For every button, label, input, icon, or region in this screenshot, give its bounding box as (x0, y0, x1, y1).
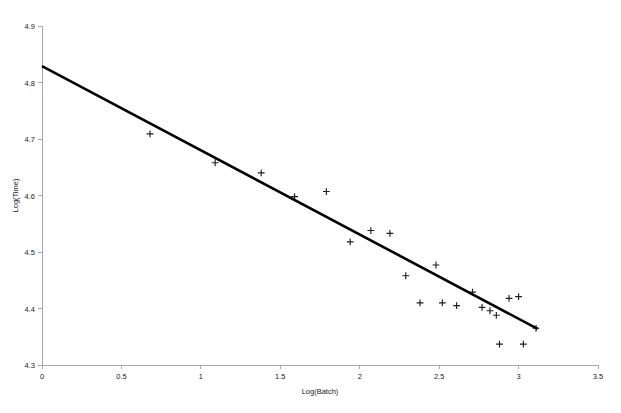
x-tick-label: 0 (40, 372, 44, 381)
y-tick-label: 4.5 (25, 248, 35, 257)
data-point-marker (520, 341, 527, 348)
x-tick-label: 3 (516, 372, 520, 381)
data-point-marker (506, 295, 513, 302)
x-tick-label: 1.5 (275, 372, 285, 381)
data-point-marker (417, 299, 424, 306)
x-tick-label: 0.5 (116, 372, 126, 381)
x-tick-label: 2 (358, 372, 362, 381)
data-point-marker (433, 262, 440, 269)
data-point-marker (402, 272, 409, 279)
y-tick-label: 4.3 (25, 361, 35, 370)
x-tick-label: 3.5 (593, 372, 603, 381)
x-tick-label: 1 (199, 372, 203, 381)
regression-line (42, 66, 538, 329)
data-point-marker (515, 293, 522, 300)
data-points-group (147, 131, 540, 348)
data-point-marker (496, 341, 503, 348)
data-point-marker (493, 312, 500, 319)
y-tick-label: 4.7 (25, 135, 35, 144)
y-axis-title: Log(Time) (11, 178, 20, 212)
y-tick-label: 4.6 (25, 192, 35, 201)
y-tick-label: 4.4 (25, 305, 35, 314)
y-tick-label: 4.8 (25, 79, 35, 88)
data-point-marker (453, 302, 460, 309)
chart-container: 00.511.522.533.54.34.44.54.64.74.84.9Log… (0, 0, 621, 413)
data-point-marker (147, 131, 154, 138)
scatter-plot: 00.511.522.533.54.34.44.54.64.74.84.9Log… (0, 0, 621, 413)
x-axis-title: Log(Batch) (302, 387, 339, 396)
data-point-marker (487, 307, 494, 314)
data-point-marker (367, 227, 374, 234)
data-point-marker (386, 230, 393, 237)
data-point-marker (479, 304, 486, 311)
data-point-marker (258, 170, 265, 177)
x-tick-label: 2.5 (434, 372, 444, 381)
data-point-marker (323, 188, 330, 195)
data-point-marker (347, 238, 354, 245)
axes-group: 00.511.522.533.54.34.44.54.64.74.84.9Log… (11, 22, 603, 396)
y-tick-label: 4.9 (25, 22, 35, 31)
data-point-marker (439, 299, 446, 306)
